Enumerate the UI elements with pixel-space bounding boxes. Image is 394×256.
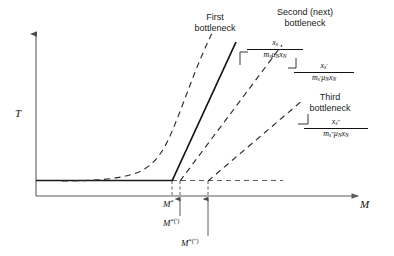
x-tick-label-mstar-dprime: M*(″) — [181, 237, 198, 248]
slope-label-third-denominator: ms″μNxN — [304, 129, 368, 139]
annotation-second-bottleneck-line1: Second (next) — [259, 7, 351, 18]
slope-label-second-denominator: ms′μNxN — [294, 73, 354, 83]
x-tick-label-mstar: M* — [163, 198, 174, 209]
second-bottleneck-asymptote — [180, 45, 282, 181]
slope-label-first: xs msμNxN — [247, 39, 303, 59]
annotation-second-bottleneck-line2: bottleneck — [259, 18, 351, 29]
slope-label-first-numerator: xs — [247, 39, 303, 49]
first-bottleneck-asymptote — [172, 42, 236, 181]
y-axis-label: T — [15, 107, 21, 119]
response-curve-dashed — [62, 33, 212, 181]
annotation-third-bottleneck-line1: Third — [300, 92, 360, 103]
annotation-first-bottleneck: First bottleneck — [185, 12, 245, 33]
slope-label-second-numerator: xs′ — [294, 62, 354, 72]
annotation-third-bottleneck-line2: bottleneck — [300, 103, 360, 114]
x-axis-label: M — [360, 198, 369, 210]
annotation-first-bottleneck-line2: bottleneck — [185, 23, 245, 34]
slope-label-first-denominator: msμNxN — [247, 50, 303, 60]
annotation-second-bottleneck: Second (next) bottleneck — [259, 7, 351, 28]
annotation-third-bottleneck: Third bottleneck — [300, 92, 360, 113]
slope-label-third: xs″ ms″μNxN — [304, 118, 368, 138]
tick-pointer-arrows — [180, 199, 208, 236]
slope-label-third-numerator: xs″ — [304, 118, 368, 128]
third-bottleneck-asymptote — [208, 100, 303, 181]
axis-group — [36, 34, 358, 196]
annotation-first-bottleneck-line1: First — [185, 12, 245, 23]
figure-container: T M First bottleneck Second (next) bottl… — [0, 0, 394, 256]
slope-label-second: xs′ ms′μNxN — [294, 62, 354, 82]
x-tick-label-mstar-prime: M*(′) — [163, 217, 179, 228]
tick-droplines — [172, 181, 208, 196]
